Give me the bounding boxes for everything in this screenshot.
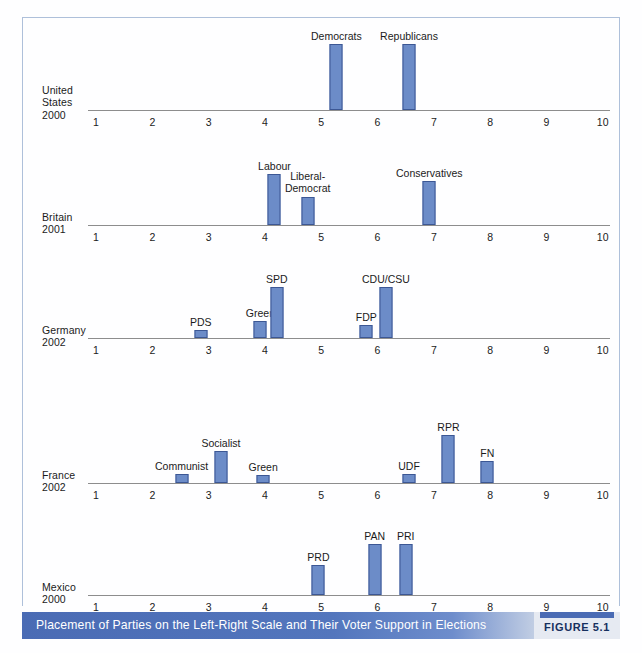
party-label: Republicans (380, 30, 438, 42)
axis-line (88, 595, 610, 596)
party-bar (270, 287, 283, 338)
panel-country-label: United (42, 84, 104, 96)
x-axis-tick-label: 4 (262, 489, 268, 501)
x-axis-tick-label: 10 (597, 344, 609, 356)
party-label: UDF (398, 460, 420, 472)
figure-number-badge: FIGURE 5.1 (534, 612, 620, 639)
party-bar (257, 475, 270, 483)
x-axis-tick-label: 7 (431, 489, 437, 501)
x-axis-tick-label: 4 (262, 231, 268, 243)
x-axis-tick-label: 6 (375, 489, 381, 501)
x-axis-tick-label: 7 (431, 344, 437, 356)
party-bar (481, 461, 494, 483)
party-bar (360, 325, 373, 338)
panel-country-label-line2: States (42, 96, 104, 108)
axis-line (88, 110, 610, 111)
party-bar (312, 565, 325, 595)
plot-frame (22, 17, 620, 606)
party-bar (403, 44, 416, 110)
x-axis-tick-label: 3 (206, 489, 212, 501)
x-axis-tick-label: 8 (487, 231, 493, 243)
x-axis-tick-label: 7 (431, 231, 437, 243)
party-label: Liberal-Democrat (277, 170, 339, 194)
party-label: SPD (266, 273, 288, 285)
x-axis-tick-label: 5 (318, 344, 324, 356)
panel-country-label: Germany (42, 324, 104, 336)
x-axis-tick-label: 6 (375, 116, 381, 128)
panel-country-label: Britain (42, 211, 104, 223)
party-label: PRI (397, 530, 415, 542)
party-bar (214, 451, 227, 483)
party-label: FN (480, 447, 494, 459)
party-label: RPR (437, 421, 459, 433)
x-axis-tick-label: 1 (93, 116, 99, 128)
party-bar (399, 544, 412, 595)
party-label: Democrats (311, 30, 362, 42)
x-axis-tick-label: 9 (543, 116, 549, 128)
party-bar (379, 287, 392, 338)
figure-number-text: FIGURE 5.1 (534, 621, 620, 633)
figure-caption-bar: Placement of Parties on the Left-Right S… (22, 612, 620, 639)
x-axis-tick-label: 5 (318, 116, 324, 128)
figure-caption-text: Placement of Parties on the Left-Right S… (36, 618, 486, 632)
party-label: CDU/CSU (362, 273, 410, 285)
party-label: Communist (155, 460, 208, 472)
x-axis-tick-label: 5 (318, 231, 324, 243)
party-bar (330, 44, 343, 110)
party-bar (423, 181, 436, 225)
x-axis-tick-label: 1 (93, 231, 99, 243)
party-label-line: Democrat (277, 182, 339, 194)
x-axis-tick-label: 2 (149, 344, 155, 356)
x-axis-tick-label: 6 (375, 344, 381, 356)
x-axis-tick-label: 3 (206, 231, 212, 243)
x-axis-tick-label: 2 (149, 231, 155, 243)
panel-country-label: France (42, 469, 104, 481)
axis-line (88, 338, 610, 339)
x-axis-tick-label: 3 (206, 344, 212, 356)
party-label: FDP (356, 311, 377, 323)
party-label: Socialist (201, 437, 240, 449)
x-axis-tick-label: 5 (318, 489, 324, 501)
x-axis-tick-label: 8 (487, 489, 493, 501)
party-label: Green (249, 461, 278, 473)
party-label: PRD (307, 551, 329, 563)
x-axis-tick-label: 4 (262, 344, 268, 356)
party-label: Conservatives (396, 167, 463, 179)
axis-line (88, 483, 610, 484)
x-axis-tick-label: 2 (149, 489, 155, 501)
x-axis-tick-label: 1 (93, 344, 99, 356)
party-bar (175, 474, 188, 483)
axis-line (88, 225, 610, 226)
party-bar (403, 474, 416, 483)
x-axis-tick-label: 6 (375, 231, 381, 243)
party-bar (254, 321, 267, 338)
party-bar (442, 435, 455, 483)
x-axis-tick-label: 9 (543, 344, 549, 356)
party-bar (368, 544, 381, 595)
figure-container: UnitedStates200012345678910DemocratsRepu… (0, 0, 642, 653)
x-axis-tick-label: 9 (543, 489, 549, 501)
x-axis-tick-label: 4 (262, 116, 268, 128)
party-bar (301, 197, 314, 225)
x-axis-tick-label: 8 (487, 116, 493, 128)
panel-country-label: Mexico (42, 581, 104, 593)
x-axis-tick-label: 10 (597, 116, 609, 128)
party-label: PAN (364, 530, 385, 542)
party-label-line: Liberal- (277, 170, 339, 182)
x-axis-tick-label: 3 (206, 116, 212, 128)
figure-number-rule (540, 612, 614, 618)
x-axis-tick-label: 10 (597, 489, 609, 501)
x-axis-tick-label: 2 (149, 116, 155, 128)
x-axis-tick-label: 10 (597, 231, 609, 243)
x-axis-tick-label: 7 (431, 116, 437, 128)
x-axis-tick-label: 9 (543, 231, 549, 243)
x-axis-tick-label: 8 (487, 344, 493, 356)
party-label: PDS (190, 316, 212, 328)
x-axis-tick-label: 1 (93, 489, 99, 501)
party-bar (194, 330, 207, 338)
